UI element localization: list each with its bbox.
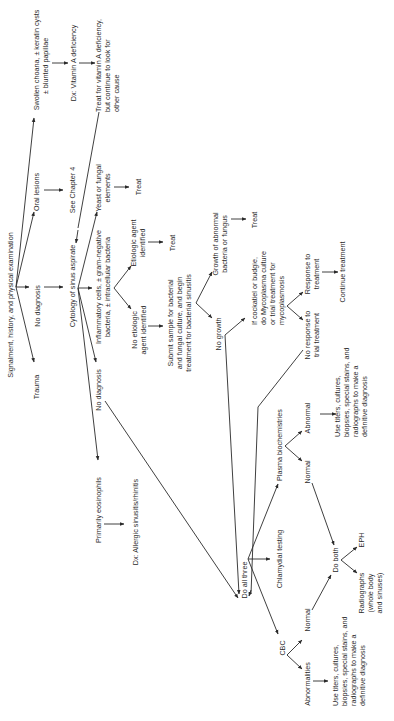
arrow-doall-to-cbc: [248, 559, 278, 634]
node-growth-line1: Growth of abnormal: [211, 212, 220, 276]
node-cbc-abnormalities: Abnormalities: [303, 662, 312, 706]
node-use-titers-b-line1: Use titers, cultures,: [331, 644, 340, 706]
arrow-cbc-normal-to-doboth: [312, 575, 331, 610]
node-labels: Signalment, history, and physical examin…: [6, 9, 384, 706]
arrow-inflam-to-etiologic: [114, 266, 131, 288]
node-use-titers-a-line3: radiographs to make a: [351, 365, 360, 437]
node-use-titers-b-line4: definitive diagnosis: [358, 645, 367, 706]
node-treat-growth: Treat: [250, 212, 259, 229]
node-cytology: Cytology of sinus aspirate: [68, 245, 77, 327]
arrow-plasma-to-normal: [285, 446, 302, 461]
arrow-plasma-normal-to-dob: [312, 483, 334, 545]
node-see-chapter-4: See Chapter 4: [68, 167, 77, 213]
node-inflammatory-line2: bacteria, ± intracellular bacteria: [103, 237, 112, 337]
node-cbc-normal: Normal: [303, 608, 312, 632]
arrow-submit-to-nogrowth: [196, 303, 212, 318]
arrow-nogrowth-to-doall: [225, 335, 239, 594]
arrow-doall-to-plasma: [248, 484, 278, 559]
node-submit-line2: and fungal culture, and begin: [175, 277, 184, 370]
node-use-titers-b-line2: biopsies, special stains, and: [340, 617, 349, 707]
node-no-etiologic-line2: agent identified: [139, 306, 148, 355]
node-cockatiel-line3: or trial treatment for: [268, 262, 277, 325]
node-cbc: CBC: [278, 640, 287, 655]
node-dx-allergic: Dx: Allergic sinusitis/rhinitis: [131, 478, 140, 565]
node-no-response-line1: No response to: [303, 311, 312, 360]
node-plasma-biochemistries: Plasma biochemistries: [275, 409, 284, 481]
node-growth-line2: bacteria or fungus: [220, 215, 229, 273]
arrow-cockatiel-to-noresponse: [287, 306, 303, 320]
node-treat-etiologic: Treat: [168, 235, 177, 252]
node-chlamydial-testing: Chlamydial testing: [275, 530, 284, 589]
node-etiologic-line1: Etiologic agent: [129, 219, 138, 266]
node-radiographs-line3: and sinuses): [375, 573, 384, 614]
node-etiologic-line2: identified: [138, 229, 147, 258]
node-response-line1: Response to: [303, 254, 312, 294]
node-cockatiel-line2: do Mycoplasma culture: [259, 251, 268, 325]
node-eph: EPH: [357, 533, 366, 548]
arrow-nodx2-to-doall: [105, 401, 238, 598]
node-use-titers-a-line2: biopsies, special stains, and: [342, 348, 351, 438]
node-treat-vita-line3: other cause: [112, 74, 121, 112]
arrow-cbc-to-normal: [287, 640, 302, 655]
node-use-titers-a-line4: definitive diagnosis: [360, 376, 369, 437]
node-plasma-abnormal: Abnormal: [303, 402, 312, 433]
node-trauma: Trauma: [32, 375, 41, 400]
node-inflammatory-line1: Inflammatory cells, ± gram-negative: [94, 230, 103, 344]
node-signalment: Signalment, history, and physical examin…: [6, 232, 15, 377]
node-dx-vitamin-a: Dx: Vitamin A deficiency: [69, 24, 78, 101]
node-do-all-three: Do all three: [240, 562, 249, 599]
node-no-etiologic-line1: No etiologic: [130, 311, 139, 349]
node-yeast-line1: Yeast or fungal: [94, 164, 103, 212]
arrow-doboth-to-radiographs: [341, 560, 357, 573]
node-cockatiel-line4: mycoplasmosis: [277, 275, 286, 325]
node-no-diagnosis-2: No diagnosis: [94, 369, 103, 411]
node-no-growth: No growth: [214, 318, 223, 351]
arrow-into-cytology: [76, 230, 78, 243]
arrow-root-to-trauma: [16, 287, 34, 362]
arrow-plasma-to-abnormal: [285, 431, 302, 446]
node-swollen-choana-line1: Swollen choana, ± keratin cysts: [32, 9, 41, 110]
node-radiographs-line1: Radiographs: [357, 572, 366, 613]
arrow-inflam-to-noetiologic: [114, 288, 131, 309]
arrow-nogrowth-to-cockatiel: [225, 318, 245, 335]
node-plasma-normal: Normal: [303, 460, 312, 484]
arrow-root-to-oral: [16, 212, 34, 287]
node-submit-line3: treatment for bacterial sinusitis: [184, 274, 193, 372]
node-no-diagnosis-1: No diagnosis: [33, 285, 42, 327]
node-use-titers-a-line1: Use titers, cultures,: [333, 375, 342, 437]
node-treat-yeast: Treat: [134, 179, 143, 196]
node-cockatiel-line1: If cockatiel or budgie,: [250, 257, 259, 325]
node-do-both: Do both: [331, 547, 340, 572]
node-treat-vita-line1: Treat for vitamin A deficiency,: [94, 19, 103, 112]
node-use-titers-b-line3: radiographs to make a: [349, 634, 358, 706]
node-submit-line1: Submit sample for bacterial: [166, 279, 175, 366]
arrow-cbc-to-abnormalities: [287, 655, 302, 669]
node-oral-lesions: Oral lesions: [32, 173, 41, 211]
node-swollen-choana-line2: ± blunted papillae: [41, 38, 50, 94]
node-radiographs-line2: (whole body: [366, 573, 375, 612]
node-continue-treatment: Continue treatment: [338, 241, 347, 302]
arrow-doboth-to-eph: [341, 547, 357, 560]
flowchart: Signalment, history, and physical examin…: [0, 0, 394, 721]
node-response-line2: treatment: [312, 259, 321, 289]
node-yeast-line2: elements: [103, 173, 112, 203]
arrow-cockatiel-to-response: [287, 292, 303, 306]
node-treat-vita-line2: but continue to look for: [103, 39, 112, 112]
node-no-response-line2: trial treatment: [312, 313, 321, 357]
arrow-submit-to-growth: [196, 272, 212, 303]
node-eosinophils: Primarily eosinophils: [94, 477, 103, 543]
